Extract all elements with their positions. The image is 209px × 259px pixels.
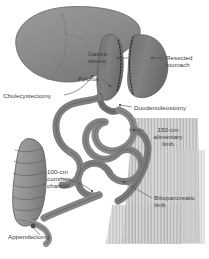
label-alimentary-limb: 150-cm alimentary limb: [145, 126, 191, 148]
appendix: [31, 224, 36, 229]
label-pylorus: Pylorus: [78, 75, 110, 82]
label-biliopancreatic-limb: Biliopancreatic limb: [154, 194, 208, 208]
label-common-channel: 100-cm common channel: [47, 168, 85, 190]
label-gastric-sleeve: Gastric sleeve: [88, 50, 122, 64]
colon: [13, 139, 49, 244]
common-channel: [44, 195, 99, 218]
figure-container: Gastric sleeve Resected stomach Pylorus …: [0, 0, 209, 259]
label-duodenoileostomy: Duodenoileostomy: [134, 104, 206, 111]
resected-stomach: [128, 35, 168, 98]
label-cholecystectomy: Cholecystectomy: [3, 92, 65, 99]
gastric-sleeve: [97, 34, 123, 100]
label-resected-stomach: Resected stomach: [166, 54, 208, 68]
label-appendectomy: Appendectomy: [8, 233, 68, 240]
